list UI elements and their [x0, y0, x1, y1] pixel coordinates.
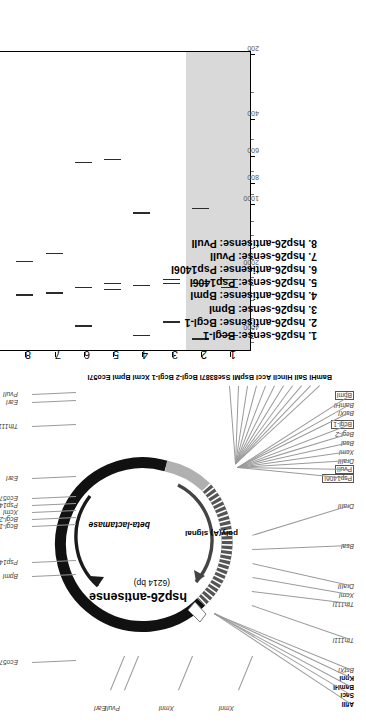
lane-number: 1 — [230, 349, 236, 361]
restriction-site-mark — [75, 287, 92, 289]
leader-line — [32, 400, 76, 403]
lane-number: 7 — [54, 349, 60, 361]
enzyme-label: EarI — [94, 705, 106, 712]
panel-a: A — [0, 364, 366, 728]
legend-item: 5. hsp26-sense: Psp1406I — [190, 277, 317, 289]
restriction-site-mark — [16, 294, 33, 296]
axis-minor-tick — [251, 194, 254, 195]
lane-number: 8 — [25, 349, 31, 361]
polylinker-sites: BamHI SalI HincII AccI BspMI Sse8387I Bc… — [87, 373, 332, 382]
lane-number: 2 — [201, 349, 207, 361]
enzyme-label: XmnI — [219, 705, 234, 712]
enzyme-label: EarI — [6, 475, 18, 482]
axis-tick — [251, 119, 255, 120]
restriction-site-mark — [133, 212, 150, 214]
enzyme-label: Tth111I — [0, 423, 18, 430]
gene-label: beta-lactamase — [89, 520, 150, 530]
restriction-site-mark — [133, 285, 150, 287]
leader-line — [252, 563, 350, 586]
restriction-site-mark — [133, 335, 150, 337]
lane-number: 6 — [84, 349, 90, 361]
lane-number: 5 — [113, 349, 119, 361]
legend-item: 1. hsp26-sense: Bcgl-1 — [203, 330, 317, 342]
restriction-site-mark — [104, 283, 121, 285]
leader-line — [214, 613, 350, 704]
legend-item: 6. hsp26-antisense: Psp1406I — [171, 264, 317, 276]
axis-label: 600 — [247, 147, 259, 154]
restriction-site-mark — [192, 208, 209, 210]
leader-line — [252, 591, 350, 604]
enzyme-label: Psp1406I — [0, 502, 18, 509]
axis-tick — [251, 204, 255, 205]
leader-line — [252, 545, 350, 550]
enzyme-label: Eco57I — [0, 659, 18, 666]
lane-number: 4 — [142, 349, 148, 361]
plasmid-size: (6214 bp) — [134, 578, 170, 588]
plasmid-circle — [38, 438, 248, 648]
leader-line — [32, 660, 76, 663]
enzyme-label: Psp1406I — [0, 559, 18, 566]
lane-number: 3 — [172, 349, 178, 361]
enzyme-label: BsaI — [341, 543, 354, 550]
axis-tick — [251, 54, 255, 55]
restriction-site-mark — [104, 159, 121, 161]
panel-a-canvas: hsp26-antisense (6214 bp) beta-lactamase… — [2, 366, 362, 726]
enzyme-label: Eco57I — [0, 495, 18, 502]
axis-tick — [251, 156, 255, 157]
restriction-site-mark — [163, 279, 180, 281]
polya-arc — [166, 466, 206, 487]
polya-label: poly(A) signal — [185, 529, 238, 538]
restriction-site-mark — [16, 261, 33, 263]
axis-tick — [251, 183, 255, 184]
leader-line — [124, 656, 139, 690]
leader-line — [32, 424, 76, 427]
legend-item: 3. hsp26-sense: BpmI — [209, 304, 317, 316]
figure-page: B 12345678 400020001000800600400200 1. h… — [0, 0, 366, 728]
legend-item: 7. hsp26-sense: PvuII — [210, 251, 317, 263]
axis-label: 200 — [247, 45, 259, 52]
panel-b: B 12345678 400020001000800600400200 1. h… — [0, 0, 366, 364]
enzyme-label: XcmI — [3, 509, 18, 516]
axis-minor-tick — [251, 221, 254, 222]
legend-item: 4. hsp26-antisense: BpmI — [190, 290, 317, 302]
restriction-site-mark — [46, 253, 63, 255]
restriction-site-mark — [46, 292, 63, 294]
leader-line — [236, 386, 311, 464]
leader-line — [214, 613, 350, 686]
panel-b-canvas: 12345678 400020001000800600400200 1. hsp… — [0, 0, 299, 351]
legend-item: 2. hsp26-antisense: Bcgl-1 — [185, 317, 317, 329]
axis-minor-tick — [251, 342, 254, 343]
leader-line — [110, 656, 125, 690]
enzyme-label: BpmI — [3, 573, 18, 580]
leader-line — [238, 656, 253, 690]
axis-minor-tick — [251, 171, 254, 172]
enzyme-label: XmnI — [159, 705, 174, 712]
restriction-site-mark — [75, 162, 92, 164]
axis-minor-tick — [251, 139, 254, 140]
leader-line — [214, 613, 350, 695]
restriction-site-mark — [75, 325, 92, 327]
enzyme-label: PvuII — [105, 705, 120, 712]
restriction-site-mark — [163, 321, 180, 323]
plasmid-name: hsp26-antisense — [89, 590, 187, 604]
leader-line — [252, 505, 350, 536]
axis-minor-tick — [251, 235, 254, 236]
enzyme-label: Tth111I — [333, 637, 354, 644]
restriction-site-mark — [163, 283, 180, 285]
axis-minor-tick — [251, 92, 254, 93]
restriction-site-mark — [104, 289, 121, 291]
enzyme-label: EarI — [6, 399, 18, 406]
enzyme-label: PvuII — [3, 391, 18, 398]
leader-line — [32, 392, 76, 395]
beta-lactamase-arrow-shaft — [76, 496, 98, 586]
axis-label: 1000 — [243, 195, 259, 202]
plasmid-map — [38, 438, 248, 648]
axis-label: 400 — [247, 110, 259, 117]
leader-line — [178, 656, 193, 690]
enzyme-label: Bcgl-1 — [0, 523, 18, 530]
axis-label: 800 — [247, 174, 259, 181]
enzyme-label: Bcgl-2 — [0, 516, 18, 523]
legend-item: 8. hsp26-antisense: PvuII — [192, 238, 317, 250]
